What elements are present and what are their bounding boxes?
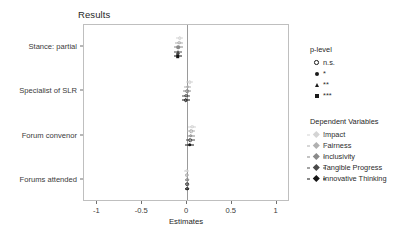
plot-panel [83, 24, 289, 201]
legend-item[interactable]: Impact [310, 129, 387, 140]
point-marker-p01 [176, 50, 180, 54]
x-tick-mark [276, 201, 277, 204]
y-tick-label: Forums attended [20, 174, 77, 183]
legend-item[interactable]: Innovative Thinking [310, 173, 387, 184]
point-marker-p001 [176, 54, 180, 58]
legend-dependent-variables-title: Dependent Variables [310, 117, 387, 126]
legend-key [310, 94, 323, 98]
circle-filled-icon [315, 72, 319, 76]
y-tick-mark [80, 178, 83, 179]
chart-root: Results Stance: partialSpecialist of SLR… [0, 0, 419, 238]
point-marker-ns [178, 36, 182, 40]
point-marker-ns [185, 90, 189, 94]
legend-p-level: p-level n.s.****** [310, 45, 335, 101]
legend-key [310, 60, 323, 65]
point-marker-ns [185, 174, 189, 178]
legend-item[interactable]: n.s. [310, 57, 335, 68]
legend-item-label: Innovative Thinking [323, 174, 387, 183]
legend-p-level-title: p-level [310, 45, 335, 54]
legend-item[interactable]: Inclusivity [310, 151, 387, 162]
x-tick-label: 0.5 [226, 206, 237, 215]
point-marker-ns [188, 138, 192, 142]
y-tick-label: Forum convenor [22, 130, 77, 139]
legend-key [310, 83, 323, 87]
point-marker-ns [184, 94, 188, 98]
legend-item-label: Fairness [323, 141, 351, 150]
x-tick-mark [231, 201, 232, 204]
y-tick-mark [80, 134, 83, 135]
point-marker-ns [185, 183, 189, 187]
x-tick-label: -1 [93, 206, 100, 215]
series-marker-icon [313, 131, 319, 137]
legend-item-label: Tangible Progress [323, 163, 382, 172]
point-marker-ns [190, 125, 194, 129]
legend-item[interactable]: *** [310, 90, 335, 101]
y-tick-mark [80, 90, 83, 91]
point-marker-p05 [177, 45, 181, 49]
x-tick-label: 0 [184, 206, 188, 215]
legend-item-label: n.s. [323, 58, 335, 67]
legend-item-label: Inclusivity [323, 152, 355, 161]
point-marker-ns [178, 41, 182, 45]
point-marker-ns [188, 81, 192, 85]
legend-item[interactable]: * [310, 68, 335, 79]
triangle-icon [315, 83, 319, 87]
point-marker-p05 [188, 143, 192, 147]
legend-item-label: *** [323, 91, 332, 100]
point-marker-ns [184, 99, 188, 103]
point-marker-ns [185, 169, 189, 173]
point-marker-ns [189, 134, 193, 138]
legend-key [310, 143, 323, 148]
y-tick-label: Specialist of SLR [19, 86, 77, 95]
x-tick-mark [186, 201, 187, 204]
series-marker-icon [313, 175, 319, 181]
point-marker-ns [185, 178, 189, 182]
x-tick-label: 1 [273, 206, 277, 215]
series-marker-icon [313, 164, 319, 170]
legend-key [310, 154, 323, 159]
x-tick-label: -0.5 [135, 206, 148, 215]
y-tick-mark [80, 46, 83, 47]
point-marker-ns [189, 129, 193, 133]
x-tick-mark [141, 201, 142, 204]
legend-item[interactable]: ** [310, 79, 335, 90]
legend-item-label: * [323, 69, 326, 78]
legend-key [310, 72, 323, 76]
point-marker-ns [186, 85, 190, 89]
y-tick-label: Stance: partial [28, 42, 77, 51]
point-marker-ns [185, 187, 189, 191]
legend-key [310, 165, 323, 170]
x-axis-title: Estimates [169, 217, 203, 226]
x-tick-mark [96, 201, 97, 204]
legend-item-label: Impact [323, 130, 345, 139]
page-title: Results [78, 9, 110, 20]
legend-item[interactable]: Fairness [310, 140, 387, 151]
square-icon [315, 94, 319, 98]
legend-dependent-variables: Dependent Variables ImpactFairnessInclus… [310, 117, 387, 184]
legend-item-label: ** [323, 80, 329, 89]
legend-key [310, 176, 323, 181]
series-marker-icon [313, 142, 319, 148]
legend-key [310, 132, 323, 137]
series-marker-icon [313, 153, 319, 159]
legend-item[interactable]: Tangible Progress [310, 162, 387, 173]
circle-open-icon [314, 60, 319, 65]
